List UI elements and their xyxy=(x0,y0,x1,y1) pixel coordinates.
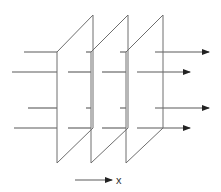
wavefront-diagram: x xyxy=(0,0,221,192)
wavefront-plane-3 xyxy=(126,15,163,163)
wavefront-plane-2 xyxy=(91,15,128,163)
x-axis-indicator: x xyxy=(75,174,122,186)
x-axis-label: x xyxy=(116,174,122,186)
rays xyxy=(12,52,209,128)
planes xyxy=(57,15,163,163)
wavefront-plane-1 xyxy=(57,15,93,163)
